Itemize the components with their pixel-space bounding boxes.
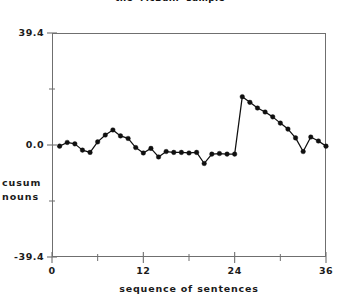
y-axis-ticks	[47, 33, 57, 257]
y-tick-label: 0.0	[0, 140, 44, 150]
x-tick-label: 12	[123, 266, 163, 276]
series-layer	[0, 0, 340, 303]
x-axis-ticks	[52, 252, 326, 263]
x-axis-label: sequence of sentences	[52, 283, 326, 294]
y-axis-label-line-1: cusum	[2, 176, 54, 190]
y-tick-label: -39.4	[0, 252, 44, 262]
cusum-chart-figure: the McBain sample 39.40.0-39.4 0122436 c…	[0, 0, 340, 303]
y-axis-label-line-2: nouns	[2, 190, 54, 204]
cusum-markers	[57, 94, 328, 165]
x-tick-label: 0	[32, 266, 72, 276]
x-tick-label: 24	[215, 266, 255, 276]
y-axis-label: cusum nouns	[2, 176, 54, 204]
x-tick-label: 36	[306, 266, 340, 276]
y-tick-label: 39.4	[0, 28, 44, 38]
